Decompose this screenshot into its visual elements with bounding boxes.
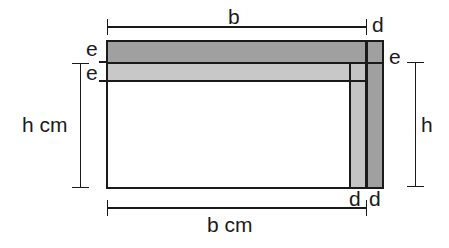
diagram-canvas: b d e e e h cm h d d b cm — [0, 0, 449, 248]
label-b-cm-bottom: b cm — [207, 214, 253, 235]
label-e-left-upper: e — [86, 38, 98, 59]
label-e-left-lower: e — [86, 62, 98, 83]
label-d-bottom-right: d — [369, 188, 381, 209]
interior-cavity — [108, 82, 350, 187]
label-h-cm-left: h cm — [22, 114, 68, 135]
top-dark-band — [107, 41, 383, 62]
second-light-band — [107, 64, 350, 81]
label-b-top: b — [228, 6, 240, 27]
outer-vertical-dark-strip — [367, 62, 383, 188]
inner-vertical-light-strip — [350, 64, 366, 188]
label-e-right: e — [389, 46, 401, 67]
label-h-right: h — [421, 114, 433, 135]
label-d-bottom-left: d — [349, 188, 361, 209]
label-d-top: d — [372, 14, 384, 35]
